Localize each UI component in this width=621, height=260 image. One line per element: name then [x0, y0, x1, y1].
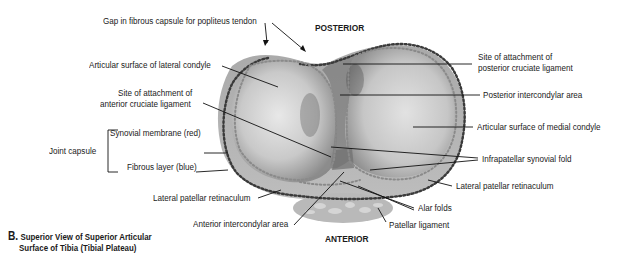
- label-patellar-ligament: Patellar ligament: [389, 220, 449, 231]
- label-acl-line2: anterior cruciate ligament: [100, 99, 191, 110]
- caption-letter: B.: [8, 229, 18, 243]
- label-lateral-patellar-retinaculum-right: Lateral patellar retinaculum: [456, 181, 554, 192]
- medial-condyle-surface: [346, 48, 454, 178]
- label-synovial-membrane: Synovial membrane (red): [110, 128, 201, 139]
- label-anterior-intercondylar-area: Anterior intercondylar area: [193, 219, 288, 230]
- leader-fibrous: [196, 170, 228, 172]
- label-fibrous-layer: Fibrous layer (blue): [127, 162, 197, 173]
- label-pcl-line1: Site of attachment of: [478, 52, 552, 63]
- label-infrapatellar-synovial-fold: Infrapatellar synovial fold: [482, 154, 571, 165]
- label-pcl-line2: posterior cruciate ligament: [478, 63, 573, 74]
- label-lateral-patellar-retinaculum-left: Lateral patellar retinaculum: [153, 193, 251, 204]
- label-joint-capsule: Joint capsule: [49, 146, 96, 157]
- orientation-anterior: ANTERIOR: [325, 233, 369, 244]
- orientation-posterior: POSTERIOR: [315, 22, 364, 33]
- caption-line2: Surface of Tibia (Tibial Plateau): [8, 243, 152, 254]
- label-articular-medial-condyle: Articular surface of medial condyle: [477, 122, 601, 133]
- leader-gap-2: [272, 23, 304, 50]
- label-gap-fibrous-capsule: Gap in fibrous capsule for popliteus ten…: [103, 16, 257, 27]
- caption-line1: Superior View of Superior Articular: [20, 232, 151, 242]
- label-alar-folds: Alar folds: [418, 203, 452, 214]
- figure-caption: B. Superior View of Superior Articular S…: [8, 231, 152, 254]
- label-posterior-intercondylar-area: Posterior intercondylar area: [483, 90, 582, 101]
- label-articular-lateral-condyle: Articular surface of lateral condyle: [89, 60, 211, 71]
- label-acl-line1: Site of attachment of: [118, 88, 192, 99]
